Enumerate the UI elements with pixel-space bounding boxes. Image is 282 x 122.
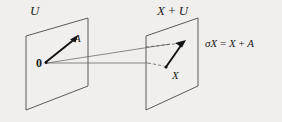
equation-x-rhs: X (229, 37, 236, 49)
origin-label: 0 (36, 57, 42, 69)
point-x-label: X (172, 70, 179, 81)
plane-label-x-term: X (157, 3, 165, 18)
equation-a-rhs: A (247, 37, 254, 49)
equation-equals: = (217, 37, 229, 49)
point-x-dot (164, 65, 167, 68)
plane-x-plus-u-label: X + U (157, 4, 188, 17)
vector-sigma-x-shaft (166, 44, 182, 67)
vector-a-shaft (46, 38, 76, 62)
equation-label: σX = X + A (205, 38, 254, 49)
equation-plus: + (236, 37, 248, 49)
figure-canvas: U X + U A 0 X σX = X + A (0, 0, 282, 122)
vector-sigma-x-arrowhead (175, 40, 186, 48)
plane-u-label: U (30, 4, 39, 17)
plane-label-plus: + (165, 3, 179, 18)
diagram-svg (0, 0, 282, 122)
plane-label-u-term: U (179, 3, 188, 18)
translation-line-origin-to-x-dashed (148, 63, 164, 66)
vector-a-label: A (74, 33, 81, 44)
origin-dot (45, 61, 48, 64)
